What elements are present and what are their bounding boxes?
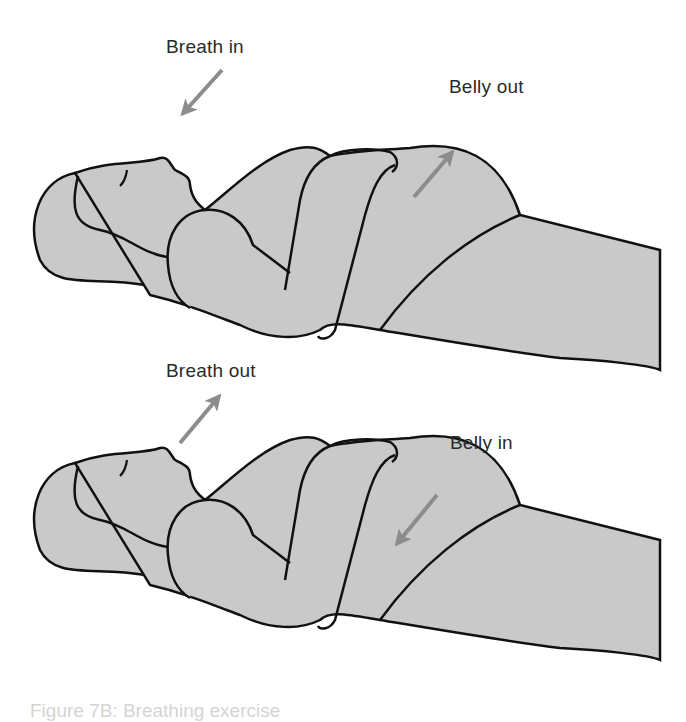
exhale-figure xyxy=(34,400,660,660)
breath-in-arrow-icon xyxy=(186,70,222,110)
breath-in-label: Breath in xyxy=(166,36,244,58)
breath-out-label: Breath out xyxy=(166,360,256,382)
belly-in-label: Belly in xyxy=(450,432,513,454)
breath-out-arrow-icon xyxy=(180,400,216,443)
belly-out-label: Belly out xyxy=(449,76,524,98)
figure-caption: Figure 7B: Breathing exercise xyxy=(30,700,280,722)
inhale-figure xyxy=(34,70,660,370)
